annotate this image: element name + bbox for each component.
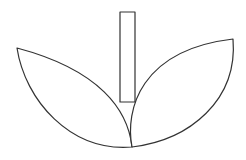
sprout-diagram bbox=[0, 0, 246, 160]
right-leaf-shape bbox=[131, 39, 234, 147]
left-leaf-shape bbox=[17, 48, 132, 147]
stem-shape bbox=[120, 12, 135, 102]
sprout-icon bbox=[0, 0, 246, 160]
